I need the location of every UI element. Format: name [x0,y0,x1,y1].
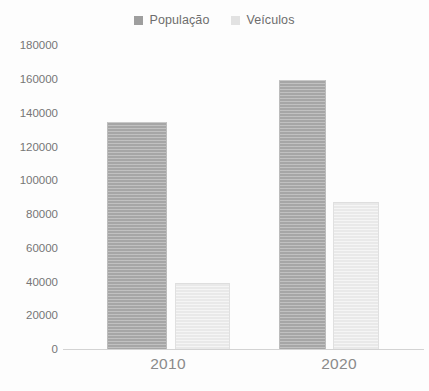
y-axis-tick: 0 [0,343,58,355]
plot-area: 180000 160000 140000 120000 100000 80000… [0,0,429,391]
y-axis-tick: 100000 [0,174,58,186]
bar-populacao-2010 [107,122,167,349]
y-axis-tick: 180000 [0,39,58,51]
bar-veiculos-2020 [333,202,379,349]
y-axis-tick: 80000 [0,208,58,220]
bar-chart: População Veículos 180000 160000 140000 … [0,0,429,391]
x-axis-line [63,349,424,350]
x-axis-tick-2020: 2020 [321,355,357,373]
y-axis-tick: 120000 [0,141,58,153]
bar-veiculos-2010 [175,283,230,349]
x-axis-tick-2010: 2010 [150,355,186,373]
y-axis-tick: 160000 [0,73,58,85]
y-axis-tick: 40000 [0,276,58,288]
y-axis-tick: 60000 [0,242,58,254]
y-axis-tick: 140000 [0,107,58,119]
y-axis-tick: 20000 [0,309,58,321]
bar-populacao-2020 [279,80,326,349]
